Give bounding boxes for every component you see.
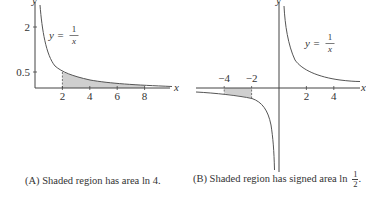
chart-b-xlabel: x bbox=[360, 81, 366, 93]
chart-b-xtick-label: 4 bbox=[331, 90, 337, 102]
caption-a: (A) Shaded region has area ln 4. bbox=[25, 175, 161, 186]
chart-a-ylabel: y bbox=[31, 0, 37, 6]
chart-a-xtick-label: 4 bbox=[87, 90, 93, 102]
chart-a-shaded-region bbox=[62, 72, 144, 88]
chart-b-xtick-label: −2 bbox=[246, 72, 258, 84]
chart-b-shaded-region bbox=[224, 88, 251, 98]
chart-a-curve-label-num: 1 bbox=[72, 24, 77, 34]
chart-b: −4 −2 2 4 x y y = 1 x bbox=[196, 0, 366, 172]
caption-b-suffix: . bbox=[358, 173, 361, 184]
chart-a-curve-label-lhs: y = bbox=[48, 29, 64, 41]
chart-b-xtick-label: 2 bbox=[304, 90, 310, 102]
chart-a-ytick-label: 2 bbox=[25, 21, 31, 33]
chart-a-curve bbox=[40, 5, 172, 87]
chart-b-curve-label-lhs: y = bbox=[304, 37, 320, 49]
chart-a-xlabel: x bbox=[173, 81, 179, 93]
chart-b-curve-label-num: 1 bbox=[328, 32, 333, 42]
chart-a-xtick-label: 6 bbox=[114, 90, 120, 102]
chart-b-curve-negative bbox=[196, 92, 275, 170]
chart-b-ylabel: y bbox=[275, 0, 281, 6]
chart-b-curve-positive bbox=[284, 6, 360, 82]
chart-a-curve-label-den: x bbox=[71, 36, 76, 46]
chart-a-ytick-label: 0.5 bbox=[16, 66, 30, 78]
chart-a-xtick-label: 2 bbox=[60, 90, 66, 102]
caption-b-text: (B) Shaded region has signed area ln bbox=[193, 173, 348, 184]
chart-a-xtick-label: 8 bbox=[142, 90, 148, 102]
chart-b-xtick-label: −4 bbox=[218, 72, 230, 84]
chart-b-curve-label-den: x bbox=[327, 44, 332, 54]
chart-a: 2 4 6 8 2 0.5 x y y = 1 x bbox=[16, 0, 179, 102]
caption-b: (B) Shaded region has signed area ln 1 2… bbox=[193, 170, 361, 189]
